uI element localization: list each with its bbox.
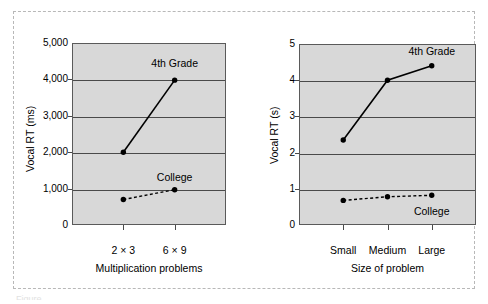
series-plot-left: [14, 12, 246, 290]
data-point-marker: [429, 193, 434, 198]
data-point-marker: [385, 78, 390, 83]
series-line: [343, 66, 432, 140]
series-line: [123, 80, 174, 152]
data-point-marker: [121, 150, 126, 155]
caption-fragment: Figure: [16, 294, 42, 300]
data-point-marker: [385, 194, 390, 199]
data-point-marker: [341, 198, 346, 203]
series-line: [123, 190, 174, 200]
figure-frame: 01,0002,0003,0004,0005,000 Vocal RT (ms)…: [13, 11, 475, 289]
chart-panel-right: 012345 Vocal RT (s) SmallMediumLarge Siz…: [246, 12, 476, 288]
data-point-marker: [172, 77, 177, 82]
data-point-marker: [341, 137, 346, 142]
data-point-marker: [172, 187, 177, 192]
data-point-marker: [429, 63, 434, 68]
series-label-college: College: [414, 205, 450, 217]
series-label-4th-grade: 4th Grade: [408, 45, 455, 57]
series-label-college: College: [157, 171, 193, 183]
series-label-4th-grade: 4th Grade: [151, 57, 198, 69]
chart-panel-left: 01,0002,0003,0004,0005,000 Vocal RT (ms)…: [14, 12, 246, 288]
data-point-marker: [121, 197, 126, 202]
